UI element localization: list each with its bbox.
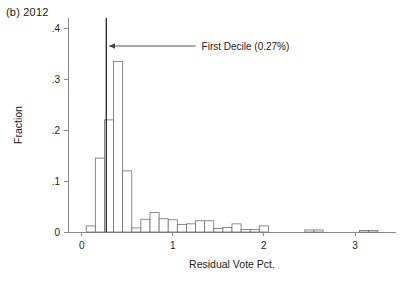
- histogram-bar: [177, 224, 186, 232]
- x-tick-label: 2: [261, 240, 267, 251]
- figure-container: (b) 2012 0.1.2.3.40123Residual Vote Pct.…: [0, 0, 405, 281]
- histogram-bar: [314, 230, 323, 232]
- histogram-bar: [223, 227, 232, 232]
- histogram-bar: [241, 229, 250, 232]
- histogram-bar: [360, 230, 369, 232]
- y-tick-label: .4: [52, 23, 61, 34]
- histogram-bar: [369, 230, 378, 232]
- histogram-bar: [150, 213, 159, 232]
- annotation-arrow-head: [109, 43, 115, 49]
- histogram-bar: [259, 226, 268, 232]
- y-tick-label: 0: [54, 227, 60, 238]
- y-tick-label: .1: [52, 176, 61, 187]
- histogram-bar: [214, 228, 223, 232]
- histogram-bar: [132, 228, 141, 232]
- histogram-bar: [250, 229, 259, 232]
- histogram-bar: [114, 61, 123, 232]
- histogram-bar: [168, 220, 177, 232]
- histogram-bar: [196, 221, 205, 232]
- histogram-bar: [186, 224, 195, 232]
- y-tick-label: .3: [52, 74, 61, 85]
- histogram-bar: [95, 158, 104, 232]
- x-axis-title: Residual Vote Pct.: [189, 258, 275, 270]
- histogram-bar: [232, 224, 241, 232]
- x-tick-label: 0: [79, 240, 85, 251]
- y-axis-title: Fraction: [12, 106, 24, 144]
- histogram-chart: 0.1.2.3.40123Residual Vote Pct.FractionF…: [0, 0, 405, 281]
- histogram-bar: [141, 219, 150, 232]
- histogram-bar: [159, 219, 168, 232]
- y-tick-label: .2: [52, 125, 61, 136]
- histogram-bar: [123, 171, 132, 232]
- histogram-bar: [86, 226, 95, 232]
- x-tick-label: 1: [170, 240, 176, 251]
- annotation-label: First Decile (0.27%): [202, 41, 290, 52]
- histogram-bar: [205, 221, 214, 232]
- x-tick-label: 3: [352, 240, 358, 251]
- histogram-bar: [305, 230, 314, 232]
